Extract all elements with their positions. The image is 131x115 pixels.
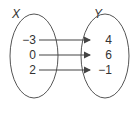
range-value: 6: [105, 48, 112, 62]
range-value: 4: [105, 33, 112, 47]
domain-set-label: X: [11, 7, 21, 21]
domain-value: 0: [29, 48, 36, 62]
domain-value: 2: [29, 63, 36, 77]
domain-value: −3: [22, 33, 36, 47]
mapping-diagram: X Y −3 0 2 4 6 −1: [0, 0, 131, 115]
range-value: −1: [98, 63, 112, 77]
